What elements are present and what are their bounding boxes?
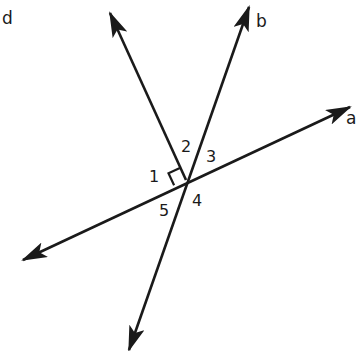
angle-label-4: 4 (192, 191, 202, 210)
angle-diagram: d b a 1 2 3 4 5 (0, 0, 358, 351)
label-b: b (256, 11, 267, 31)
angle-label-2: 2 (181, 137, 191, 156)
right-angle-marker (169, 168, 181, 186)
label-d: d (2, 8, 13, 28)
angle-label-5: 5 (159, 201, 169, 220)
ray-d (110, 13, 186, 180)
angle-label-1: 1 (149, 167, 159, 186)
label-a: a (346, 108, 356, 128)
line-b (129, 7, 249, 350)
angle-label-3: 3 (206, 147, 216, 166)
